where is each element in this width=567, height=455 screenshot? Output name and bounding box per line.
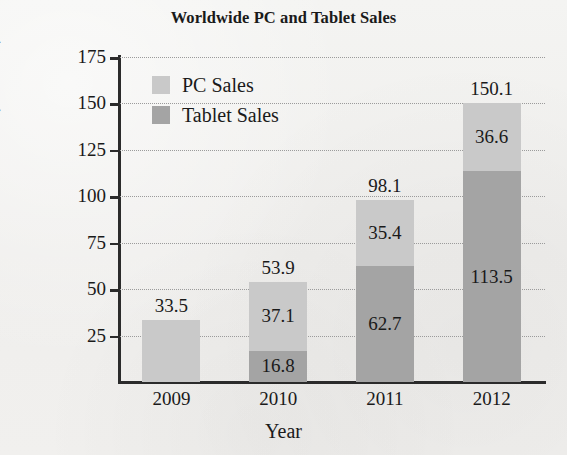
y-tick-label: 150 (78, 92, 107, 114)
bar-segment-tablet-2012[interactable]: 113.5 (463, 171, 521, 382)
x-tick-label-2009: 2009 (118, 388, 225, 410)
chart-canvas: Worldwide PC and Tablet Sales Number Sol… (0, 0, 567, 455)
gridline (118, 57, 545, 58)
bar-value-label-pc-2012: 36.6 (463, 126, 521, 148)
y-tick-label: 25 (87, 325, 106, 347)
bar-2010[interactable]: 16.837.153.9 (249, 282, 307, 382)
chart-legend: PC SalesTablet Sales (152, 70, 279, 130)
bar-segment-pc-2009[interactable] (142, 320, 200, 382)
bar-total-label-2012: 150.1 (457, 78, 527, 100)
y-tick-mark (110, 289, 119, 292)
bar-2009[interactable]: 33.5 (142, 320, 200, 382)
bar-total-label-2011: 98.1 (350, 175, 420, 197)
x-tick-label-2010: 2010 (225, 388, 332, 410)
legend-label: PC Sales (182, 74, 254, 97)
x-tick-label-2011: 2011 (332, 388, 439, 410)
legend-item-tablet-sales[interactable]: Tablet Sales (152, 100, 279, 130)
y-tick-mark (110, 150, 119, 153)
y-tick-label: 50 (87, 278, 106, 300)
x-tick-label-2012: 2012 (438, 388, 545, 410)
legend-label: Tablet Sales (182, 104, 279, 127)
bar-2012[interactable]: 113.536.6150.1 (463, 103, 521, 382)
bar-segment-pc-2012[interactable]: 36.6 (463, 103, 521, 171)
legend-swatch-icon (152, 106, 170, 124)
y-tick-mark (110, 57, 119, 60)
y-tick-mark (110, 243, 119, 246)
y-tick-mark (110, 103, 119, 106)
bar-value-label-pc-2011: 35.4 (356, 222, 414, 244)
bar-value-label-tablet-2011: 62.7 (356, 313, 414, 335)
bar-total-label-2009: 33.5 (136, 295, 206, 317)
legend-item-pc-sales[interactable]: PC Sales (152, 70, 279, 100)
y-axis-title: Number Sold (millions) (0, 37, 1, 228)
y-tick-label: 175 (78, 46, 107, 68)
bar-total-label-2010: 53.9 (243, 257, 313, 279)
chart-title: Worldwide PC and Tablet Sales (0, 8, 567, 28)
y-tick-label: 125 (78, 139, 107, 161)
bar-value-label-tablet-2010: 16.8 (249, 355, 307, 377)
bar-value-label-pc-2010: 37.1 (249, 305, 307, 327)
y-tick-label: 75 (87, 232, 106, 254)
bar-segment-tablet-2010[interactable]: 16.8 (249, 351, 307, 382)
bar-segment-pc-2010[interactable]: 37.1 (249, 282, 307, 351)
y-tick-mark (110, 336, 119, 339)
y-tick-mark (110, 196, 119, 199)
bar-value-label-tablet-2012: 113.5 (463, 266, 521, 288)
bar-segment-pc-2011[interactable]: 35.4 (356, 200, 414, 266)
bar-segment-tablet-2011[interactable]: 62.7 (356, 266, 414, 382)
legend-swatch-icon (152, 76, 170, 94)
bar-2011[interactable]: 62.735.498.1 (356, 200, 414, 382)
y-tick-label: 100 (78, 185, 107, 207)
x-axis-title: Year (0, 420, 567, 443)
